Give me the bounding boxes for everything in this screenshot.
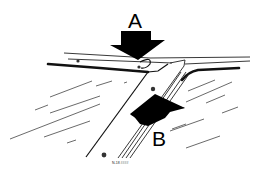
hatch-line xyxy=(186,82,232,102)
callout-b-label: B xyxy=(152,127,166,150)
molding-end-cap xyxy=(148,64,168,72)
left-glass-hatching xyxy=(10,81,127,143)
hatch-line xyxy=(35,105,48,110)
screw-left xyxy=(76,59,79,62)
hatch-line xyxy=(10,104,100,139)
screw-pillar-upper xyxy=(151,87,155,91)
hatch-line xyxy=(124,82,127,83)
hatch-line xyxy=(67,140,76,143)
callout-a: A xyxy=(110,9,165,60)
right-glass-hatching xyxy=(170,80,238,148)
molding-junction-diagram: A B N-18 #### xyxy=(0,0,257,172)
roof-edge-line-right xyxy=(185,61,250,64)
clip-hook xyxy=(140,59,150,68)
roof-edge-line-lower xyxy=(68,59,172,63)
callout-a-label: A xyxy=(128,9,142,32)
screw-clip xyxy=(137,65,140,68)
hatch-line xyxy=(188,80,215,91)
hatch-line xyxy=(50,96,100,113)
hatch-line xyxy=(50,81,92,97)
arrow-up-icon-body xyxy=(132,97,185,126)
callout-b: B xyxy=(130,94,185,150)
figure-code: N-18 #### xyxy=(112,161,128,165)
hatch-line xyxy=(170,119,204,131)
arrow-down-icon xyxy=(110,31,165,60)
roof-edge-line-upper xyxy=(64,53,250,58)
hatch-line xyxy=(186,136,220,148)
pillar-top-left-edge xyxy=(170,60,185,66)
left-molding-strip xyxy=(48,64,148,72)
screw-pillar-lower xyxy=(102,153,107,158)
hatch-line xyxy=(222,107,238,113)
hatch-line xyxy=(96,81,112,86)
right-molding-strip xyxy=(182,68,239,80)
hatch-line xyxy=(206,95,225,103)
